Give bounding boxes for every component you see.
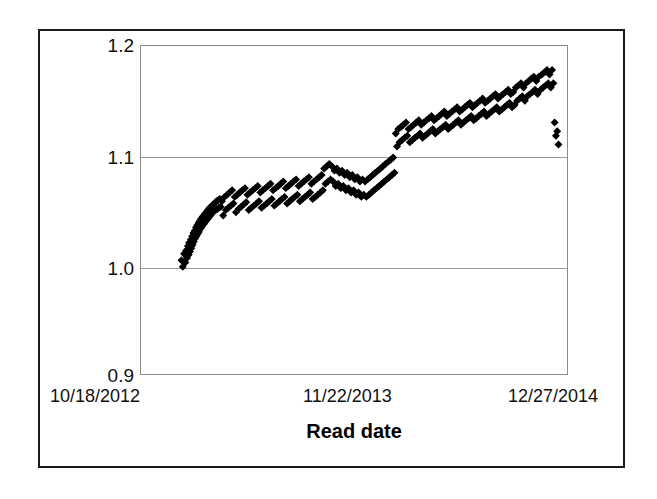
y-tick-label-1-1: 1.1 [90, 148, 134, 167]
x-tick-label-end: 12/27/2014 [508, 387, 598, 405]
scatter-series-layer [141, 46, 567, 374]
y-tick-label-1-2: 1.2 [90, 36, 134, 55]
x-tick-label-start: 10/18/2012 [50, 387, 140, 405]
x-tick-label-middle: 11/22/2013 [303, 387, 392, 405]
y-tick-label-0-9: 0.9 [90, 366, 134, 385]
y-tick-label-1-0: 1.0 [90, 259, 134, 278]
x-axis-title: Read date [140, 420, 568, 443]
y-axis-tick-labels: 1.2 1.1 1.0 0.9 [88, 0, 134, 499]
figure-container: Relative reader sensitivity 1.2 1.1 1.0 … [0, 0, 657, 499]
plot-area [140, 45, 568, 375]
